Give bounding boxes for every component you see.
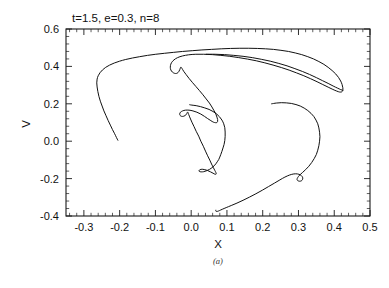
- x-tick-label: 0.3: [291, 221, 306, 233]
- y-tick-label: -0.2: [40, 173, 59, 185]
- x-tick-label: 0.4: [327, 221, 342, 233]
- x-tick-label: 0.1: [219, 221, 234, 233]
- phase-space-plot: -0.3-0.2-0.10.00.10.20.30.40.5 0.60.40.2…: [0, 0, 389, 288]
- x-tick-label: -0.1: [146, 221, 165, 233]
- x-tick-label: 0.5: [362, 221, 377, 233]
- figure-caption: (a): [213, 256, 223, 266]
- x-tick-label: 0.2: [255, 221, 270, 233]
- figure-panel: -0.3-0.2-0.10.00.10.20.30.40.5 0.60.40.2…: [0, 0, 389, 288]
- y-axis-label: V: [20, 120, 32, 128]
- y-tick-label: 0.2: [44, 98, 59, 110]
- y-tick-label: 0.4: [44, 60, 59, 72]
- x-tick-label: 0.0: [184, 221, 199, 233]
- y-tick-label: 0.6: [44, 23, 59, 35]
- chart-title: t=1.5, e=0.3, n=8: [72, 12, 159, 24]
- x-tick-labels: -0.3-0.2-0.10.00.10.20.30.40.5: [74, 221, 377, 233]
- x-tick-label: -0.3: [74, 221, 93, 233]
- y-tick-label: 0.0: [44, 135, 59, 147]
- y-tick-label: -0.4: [40, 210, 59, 222]
- x-axis-label: X: [214, 238, 222, 250]
- x-tick-label: -0.2: [110, 221, 129, 233]
